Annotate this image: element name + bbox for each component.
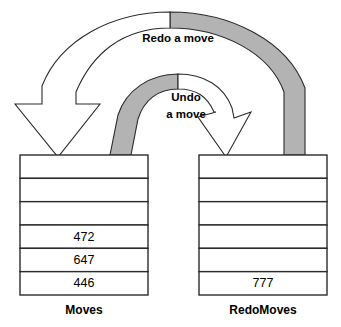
redomoves-stack-cell <box>199 225 327 248</box>
redomoves-stack-cell <box>199 202 327 225</box>
diagram-canvas: Redo a move Undo a move 472 647 446 <box>0 0 341 327</box>
redomoves-stack-cell <box>199 155 327 178</box>
undo-arrow-label-line-1: Undo <box>171 91 200 103</box>
moves-stack: 472 647 446 Moves <box>20 155 148 317</box>
moves-stack-cell <box>20 178 148 201</box>
redo-arrow-label: Redo a move <box>142 32 214 44</box>
moves-stack-caption: Moves <box>65 303 103 317</box>
undo-arrow-label-line-2: a move <box>166 108 206 120</box>
undo-arrow: Undo a move <box>110 74 251 157</box>
moves-stack-cell <box>20 155 148 178</box>
redomoves-stack-cell <box>199 248 327 271</box>
moves-stack-cell-value: 647 <box>74 253 95 267</box>
redomoves-stack-caption: RedoMoves <box>229 303 297 317</box>
diagram-svg: Redo a move Undo a move 472 647 446 <box>0 0 341 327</box>
redomoves-stack-cell-value: 777 <box>253 276 274 290</box>
moves-stack-cell-value: 472 <box>74 230 95 244</box>
moves-stack-cell <box>20 202 148 225</box>
redomoves-stack: 777 RedoMoves <box>199 155 327 317</box>
redomoves-stack-cell <box>199 178 327 201</box>
moves-stack-cell-value: 446 <box>74 276 95 290</box>
